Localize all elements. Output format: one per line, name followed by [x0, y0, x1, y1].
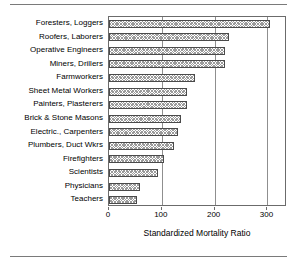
category-label: Operative Engineers [30, 43, 103, 57]
category-label: Farmworkers [56, 70, 103, 84]
category-label: Sheet Metal Workers [28, 84, 103, 98]
category-label: Teachers [71, 192, 103, 206]
top-divider-rule [10, 4, 287, 5]
bar-row [109, 17, 287, 31]
category-label: Firefighters [63, 152, 103, 166]
bar-series [109, 17, 285, 205]
chart-figure: Foresters, LoggersRoofers, LaborersOpera… [0, 0, 297, 262]
category-label: Brick & Stone Masons [24, 111, 103, 125]
bar-row [109, 112, 287, 126]
bar [109, 142, 174, 150]
bar-row [109, 166, 287, 180]
bar-row [109, 98, 287, 112]
x-tick-label-100: 100 [154, 210, 167, 219]
bar-row [109, 139, 287, 153]
bar [109, 101, 187, 109]
category-label: Plumbers, Duct Wkrs [28, 138, 103, 152]
category-label: Scientists [69, 165, 103, 179]
y-axis-category-labels: Foresters, LoggersRoofers, LaborersOpera… [0, 16, 106, 206]
bar [109, 155, 164, 163]
bar [109, 60, 225, 68]
bar [109, 196, 137, 204]
category-label: Foresters, Loggers [36, 16, 103, 30]
bar-row [109, 85, 287, 99]
bar [109, 169, 158, 177]
bar-row [109, 193, 287, 207]
bar-row [109, 180, 287, 194]
bar-row [109, 58, 287, 72]
category-label: Painters, Plasterers [33, 97, 103, 111]
x-axis-ticks: 0100200300 [108, 207, 286, 219]
bar-row [109, 126, 287, 140]
bar [109, 115, 181, 123]
bar-row [109, 31, 287, 45]
category-label: Roofers, Laborers [39, 30, 103, 44]
category-label: Miners, Drillers [50, 57, 103, 71]
bar [109, 47, 225, 55]
plot-area [108, 16, 286, 206]
bar-row [109, 153, 287, 167]
bar [109, 20, 270, 28]
x-tick-label-300: 300 [260, 210, 273, 219]
bar [109, 33, 229, 41]
x-tick-label-200: 200 [207, 210, 220, 219]
bar-row [109, 44, 287, 58]
x-tick-label-0: 0 [106, 210, 110, 219]
bar [109, 183, 140, 191]
bar [109, 88, 187, 96]
bar [109, 74, 195, 82]
bar [109, 128, 178, 136]
x-axis-title: Standardized Mortality Ratio [108, 228, 286, 238]
bar-row [109, 71, 287, 85]
category-label: Electric., Carpenters [31, 125, 103, 139]
category-label: Physicians [65, 179, 103, 193]
bottom-divider-rule [10, 256, 287, 257]
